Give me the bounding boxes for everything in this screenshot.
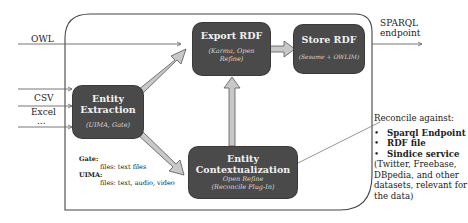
reconcile-item: RDF file bbox=[374, 138, 468, 149]
entity-extraction-node: Entity Extraction (UIMA, Gate) bbox=[73, 86, 143, 138]
owl-label: OWL bbox=[31, 34, 54, 44]
arrow-export-to-store bbox=[270, 41, 295, 57]
sparql-label-line2: endpoint bbox=[380, 28, 420, 38]
entity-contextualization-subtitle-1: Open Refine bbox=[189, 175, 297, 183]
gate-files: files: text files bbox=[100, 163, 146, 171]
reconcile-item: Sindice service bbox=[374, 149, 468, 160]
store-rdf-subtitle: (Sesame + OWLIM) bbox=[294, 53, 364, 61]
store-rdf-title: Store RDF bbox=[294, 34, 364, 45]
reconcile-heading: Reconcile against: bbox=[374, 113, 468, 124]
store-rdf-node: Store RDF (Sesame + OWLIM) bbox=[294, 25, 364, 73]
sparql-endpoint-label: SPARQL endpoint bbox=[380, 18, 420, 38]
entity-contextualization-subtitle-2: (Reconcile Plug-In) bbox=[189, 183, 297, 191]
export-rdf-subtitle-1: (Karma, Open bbox=[193, 47, 270, 55]
reconcile-panel: Reconcile against: Sparql Endpoint RDF f… bbox=[374, 113, 468, 201]
reconcile-note: (Twitter, Freebase, DBpedia, and other d… bbox=[374, 159, 468, 201]
entity-contextualization-title-2: Contextualization bbox=[189, 164, 297, 175]
uima-files: files: text, audio, video bbox=[100, 179, 175, 187]
entity-contextualization-title-1: Entity bbox=[189, 153, 297, 164]
reconcile-pointer-line bbox=[292, 122, 380, 166]
arrow-extraction-to-export bbox=[138, 49, 186, 94]
arrow-contextualization-to-export bbox=[224, 77, 240, 146]
entity-contextualization-node: Entity Contextualization Open Refine (Re… bbox=[189, 147, 297, 198]
entity-extraction-title-1: Entity bbox=[73, 93, 143, 104]
gate-label: Gate: bbox=[79, 155, 98, 163]
entity-extraction-title-2: Extraction bbox=[73, 104, 143, 115]
ellipsis-label: ... bbox=[37, 116, 46, 126]
export-rdf-subtitle-2: Refine) bbox=[193, 55, 270, 63]
reconcile-list: Sparql Endpoint RDF file Sindice service bbox=[374, 128, 468, 160]
csv-label: CSV bbox=[34, 93, 54, 103]
uima-label: UIMA: bbox=[79, 171, 102, 179]
sparql-label-line1: SPARQL bbox=[380, 18, 420, 28]
export-rdf-title: Export RDF bbox=[193, 30, 270, 41]
reconcile-item: Sparql Endpoint bbox=[374, 128, 468, 139]
entity-extraction-subtitle: (UIMA, Gate) bbox=[73, 121, 143, 129]
export-rdf-node: Export RDF (Karma, Open Refine) bbox=[193, 23, 270, 75]
